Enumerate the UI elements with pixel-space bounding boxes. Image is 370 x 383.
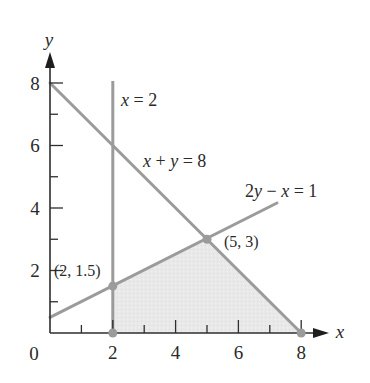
y-tick-label: 2 — [30, 260, 40, 281]
label-x-plus-y-eq-8: x + y = 8 — [142, 151, 206, 171]
vertex-point-8-0 — [297, 329, 306, 338]
y-tick-label: 8 — [30, 73, 40, 94]
origin-label: 0 — [29, 343, 39, 364]
y-axis-label: y — [43, 29, 54, 50]
label-2y-minus-x-eq-1: 2y − x = 1 — [245, 181, 317, 201]
y-axis — [45, 52, 55, 333]
feasible-region — [113, 239, 301, 333]
x-tick-label: 8 — [296, 342, 306, 363]
x-axis-arrow-icon — [313, 328, 329, 338]
vertex-point-5-3 — [203, 235, 212, 244]
y-tick-label: 6 — [30, 135, 40, 156]
label-x-eq-2: x = 2 — [120, 90, 157, 110]
y-axis-arrow-icon — [45, 52, 55, 68]
point-label-5-3: (5, 3) — [224, 233, 259, 251]
y-tick-label: 4 — [30, 198, 40, 219]
x-tick-label: 6 — [234, 342, 244, 363]
vertex-point-2-0 — [108, 329, 117, 338]
x-axis-label: x — [335, 321, 345, 342]
lp-graph: 0 2 4 6 8 2 4 6 8 y x x = 2 x + y = 8 2y… — [0, 0, 370, 383]
x-tick-label: 2 — [108, 342, 118, 363]
point-label-2-1.5: (2, 1.5) — [54, 262, 101, 280]
vertex-point-2-1.5 — [108, 282, 117, 291]
x-tick-label: 4 — [171, 342, 181, 363]
